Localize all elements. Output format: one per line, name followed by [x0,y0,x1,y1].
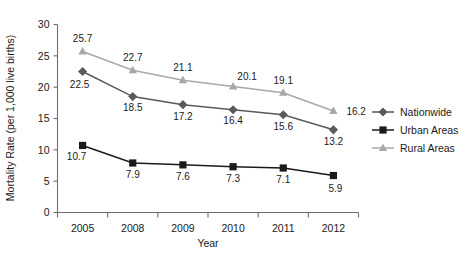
series-rural-areas [78,47,337,114]
data-label: 7.1 [276,174,290,185]
x-tick-label: 2011 [272,222,295,234]
y-tick-label: 5 [44,175,50,187]
x-tick-label: 2005 [71,222,95,234]
data-label: 7.3 [226,173,240,184]
series-nationwide [78,67,338,134]
data-point [229,163,236,170]
data-label: 16.4 [223,115,243,126]
x-axis-title: Year [197,237,219,249]
series-line [83,51,334,111]
data-label: 25.7 [73,33,93,44]
y-axis-tick-labels: 051015202530 [38,18,50,218]
data-label: 19.1 [274,75,294,86]
data-label: 10.7 [67,151,87,162]
y-tick-label: 25 [38,50,50,62]
axes [58,25,359,213]
x-tick-label: 2008 [121,222,145,234]
data-label: 22.5 [70,79,90,90]
legend-label: Rural Areas [400,142,455,154]
y-axis-ticks [54,25,58,213]
data-label-layer: 22.518.517.216.415.613.210.77.97.67.37.1… [67,33,366,193]
legend-label: Nationwide [400,106,452,118]
data-label: 5.9 [328,183,342,194]
data-label: 16.2 [346,106,366,117]
data-label: 18.5 [123,102,143,113]
legend-label: Urban Areas [400,124,458,136]
y-axis-title: Mortality Rate (per 1,000 live births) [4,35,16,201]
data-point [330,172,337,179]
y-tick-label: 10 [38,144,50,156]
data-label: 13.2 [324,136,344,147]
y-tick-label: 15 [38,112,50,124]
data-point [280,164,287,171]
legend-marker [378,107,387,116]
legend-item-nationwide[interactable]: Nationwide [372,106,452,118]
chart-figure: 051015202530 200520082009201020112012 22… [0,0,470,269]
legend-item-urban-areas[interactable]: Urban Areas [372,124,458,136]
data-point [78,67,87,76]
data-label: 7.6 [176,171,190,182]
x-axis-tick-labels: 200520082009201020112012 [71,222,345,234]
data-point [178,100,187,109]
chart-legend: NationwideUrban AreasRural Areas [372,106,458,154]
data-point [279,110,288,119]
data-point [228,105,237,114]
legend-marker [379,126,386,133]
y-tick-label: 30 [38,18,50,30]
data-label: 21.1 [173,62,193,73]
x-tick-label: 2009 [171,222,195,234]
series-layer [78,47,338,179]
series-line [83,145,334,175]
data-label: 20.1 [237,71,257,82]
series-line [83,72,334,130]
data-label: 22.7 [123,52,143,63]
data-point [79,142,86,149]
x-tick-label: 2012 [322,222,346,234]
data-point [179,161,186,168]
x-tick-label: 2010 [221,222,245,234]
chart-canvas: 051015202530 200520082009201020112012 22… [0,0,470,269]
y-tick-label: 20 [38,81,50,93]
y-tick-label: 0 [44,206,50,218]
data-point [78,47,86,54]
data-label: 15.6 [274,121,294,132]
data-point [129,159,136,166]
data-label: 7.9 [126,169,140,180]
data-point [329,125,338,134]
legend-item-rural-areas[interactable]: Rural Areas [372,142,455,154]
x-axis-ticks [58,213,359,218]
data-point [128,92,137,101]
series-urban-areas [79,142,337,179]
data-label: 17.2 [173,111,193,122]
